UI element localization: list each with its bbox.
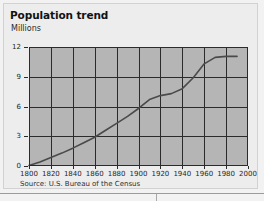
x-tick-mark <box>29 166 30 169</box>
source-note: Source: U.S. Bureau of the Census <box>20 180 140 188</box>
y-tick-mark <box>24 136 28 137</box>
data-line-layer <box>29 47 248 166</box>
y-tick-mark <box>24 77 28 78</box>
y-tick-label: 9 <box>5 73 21 81</box>
x-tick-label: 1980 <box>214 170 238 178</box>
x-tick-label: 1900 <box>127 170 151 178</box>
page-title: Population trend <box>10 9 108 21</box>
x-tick-label: 1860 <box>83 170 107 178</box>
y-tick-label: 0 <box>5 162 21 170</box>
x-tick-label: 1800 <box>17 170 41 178</box>
y-tick-mark <box>24 47 28 48</box>
chart-figure: Population trend Millions 036912 1800182… <box>0 0 264 201</box>
x-tick-label: 1960 <box>192 170 216 178</box>
bottom-divider <box>0 193 264 194</box>
x-tick-mark <box>160 166 161 169</box>
x-tick-mark <box>73 166 74 169</box>
y-tick-label: 3 <box>5 132 21 140</box>
series-line-population <box>29 56 237 165</box>
x-tick-mark <box>117 166 118 169</box>
x-tick-mark <box>226 166 227 169</box>
y-tick-label: 12 <box>5 43 21 51</box>
x-tick-label: 1940 <box>170 170 194 178</box>
bottom-divider-tick <box>156 194 157 201</box>
x-tick-label: 2000 <box>236 170 260 178</box>
x-tick-mark <box>182 166 183 169</box>
x-tick-mark <box>248 166 249 169</box>
y-tick-mark <box>24 166 28 167</box>
x-tick-label: 1840 <box>61 170 85 178</box>
x-tick-mark <box>204 166 205 169</box>
x-tick-mark <box>51 166 52 169</box>
plot-area <box>29 47 248 166</box>
x-tick-label: 1820 <box>39 170 63 178</box>
x-tick-mark <box>95 166 96 169</box>
x-tick-mark <box>139 166 140 169</box>
x-tick-label: 1880 <box>105 170 129 178</box>
x-tick-label: 1920 <box>148 170 172 178</box>
y-tick-label: 6 <box>5 103 21 111</box>
y-tick-mark <box>24 107 28 108</box>
y-axis-title: Millions <box>11 24 41 33</box>
